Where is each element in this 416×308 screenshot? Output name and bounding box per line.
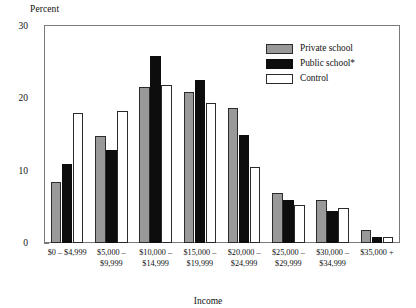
bar-control xyxy=(383,237,394,243)
legend-label: Private school xyxy=(300,43,353,54)
x-axis-tick-label-line1: $30,000 – xyxy=(316,248,349,257)
bar-public xyxy=(372,237,383,244)
bar-private xyxy=(272,193,283,243)
x-axis-title: Income xyxy=(0,296,416,307)
bar-control xyxy=(161,85,172,243)
legend-label: Public school* xyxy=(300,58,355,69)
bar-private xyxy=(184,92,195,243)
y-axis-tick-label: 10 xyxy=(0,166,28,176)
x-axis-tick-label-line1: $25,000 – xyxy=(272,248,305,257)
x-axis-tick-label-line1: $10,000 – xyxy=(139,248,172,257)
bar-group xyxy=(45,26,89,243)
bar-control xyxy=(338,208,349,243)
x-axis-tick-label-line2: $34,999 xyxy=(303,259,363,270)
y-axis-tick-label: 30 xyxy=(0,21,28,31)
bar-public xyxy=(195,80,206,243)
bar-private xyxy=(316,200,327,243)
x-axis-tick-label-line1: $20,000 – xyxy=(228,248,261,257)
bar-public xyxy=(283,200,294,243)
legend-swatch-private xyxy=(266,44,293,54)
legend-item: Private school xyxy=(266,42,388,55)
legend-label: Control xyxy=(300,73,328,84)
bar-public xyxy=(327,211,338,243)
y-axis: 0102030 xyxy=(0,0,44,308)
legend-swatch-public xyxy=(266,59,293,69)
bar-control xyxy=(206,103,217,243)
bar-control xyxy=(250,167,261,243)
x-axis-tick-label-line1: $35,000 + xyxy=(360,248,393,257)
bar-group xyxy=(89,26,133,243)
legend-item: Control xyxy=(266,72,388,85)
bar-public xyxy=(106,150,117,243)
bar-private xyxy=(228,108,239,243)
x-axis-tick-label-line1: $15,000 – xyxy=(184,248,217,257)
bar-public xyxy=(62,164,73,243)
bar-private xyxy=(361,230,372,243)
bar-private xyxy=(95,136,106,243)
bar-control xyxy=(73,113,84,243)
legend-swatch-control xyxy=(266,74,293,84)
bar-private xyxy=(139,87,150,243)
bar-group xyxy=(134,26,178,243)
x-axis-tick-label-line1: $5,000 – xyxy=(97,248,126,257)
bar-public xyxy=(150,56,161,243)
bar-public xyxy=(239,135,250,244)
x-axis-tick-label: $35,000 + xyxy=(347,248,407,259)
bar-private xyxy=(51,182,62,243)
y-axis-tick-label: 20 xyxy=(0,93,28,103)
y-axis-tick-label: 0 xyxy=(0,238,28,248)
legend-item: Public school* xyxy=(266,57,388,70)
y-axis-tick-mark xyxy=(44,243,49,244)
bar-chart: Percent 0102030 $0 – $4,999$5,000 –$9,99… xyxy=(0,0,416,308)
bar-group xyxy=(178,26,222,243)
legend: Private schoolPublic school*Control xyxy=(266,42,388,87)
bar-control xyxy=(294,205,305,243)
bar-group xyxy=(222,26,266,243)
x-axis-labels: $0 – $4,999$5,000 –$9,999$10,000 –$14,99… xyxy=(45,248,399,282)
bar-control xyxy=(117,111,128,243)
